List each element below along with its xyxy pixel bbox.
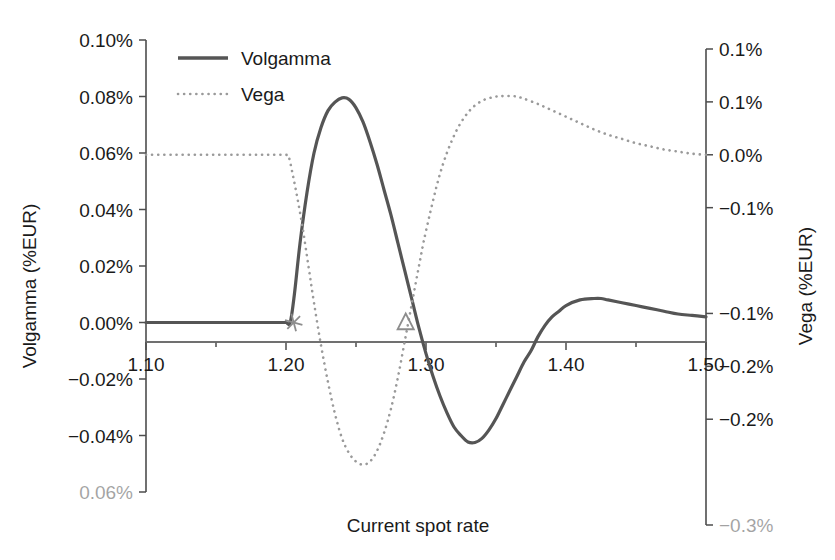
left-tick-label: −0.04%	[68, 426, 133, 447]
left-tick-label: 0.02%	[79, 256, 133, 277]
chart-canvas: 0.10%0.08%0.06%0.04%0.02%0.00%−0.02%−0.0…	[0, 0, 835, 560]
x-tick-label: 1.20	[268, 354, 305, 375]
x-tick-label: 1.50	[688, 354, 725, 375]
volgamma-vega-chart: 0.10%0.08%0.06%0.04%0.02%0.00%−0.02%−0.0…	[0, 0, 835, 560]
right-tick-label: −0.2%	[719, 356, 774, 377]
left-tick-label: −0.02%	[68, 369, 133, 390]
right-tick-label: 0.0%	[719, 145, 762, 166]
right-tick-label: −0.1%	[719, 198, 774, 219]
series-line-vega	[146, 96, 706, 465]
left-tick-label: 0.06%	[79, 482, 133, 503]
left-tick-label: 0.10%	[79, 30, 133, 51]
left-tick-label: 0.08%	[79, 87, 133, 108]
left-tick-label: 0.04%	[79, 200, 133, 221]
legend-label-vega: Vega	[241, 84, 285, 105]
x-tick-label: 1.40	[548, 354, 585, 375]
right-tick-label: −0.1%	[719, 303, 774, 324]
y-axis-title: Volgamma (%EUR)	[19, 204, 40, 369]
series-line-volgamma	[146, 98, 706, 443]
marker-layer	[285, 314, 414, 332]
triangle-marker	[398, 314, 414, 330]
legend: Volgamma Vega	[178, 48, 331, 105]
right-axis-tick-labels: 0.1%0.1%0.0%−0.1%−0.1%−0.2%−0.2%−0.3%	[719, 39, 774, 536]
left-axis-tick-labels: 0.10%0.08%0.06%0.04%0.02%0.00%−0.02%−0.0…	[68, 30, 133, 503]
series-layer	[146, 96, 706, 465]
y2-axis-title: Vega (%EUR)	[795, 227, 816, 345]
left-tick-label: 0.06%	[79, 143, 133, 164]
x-axis-title: Current spot rate	[347, 515, 490, 536]
right-tick-label: −0.2%	[719, 409, 774, 430]
right-tick-label: −0.3%	[719, 515, 774, 536]
left-tick-label: 0.00%	[79, 313, 133, 334]
x-tick-label: 1.10	[128, 354, 165, 375]
left-axis-ticks	[139, 40, 146, 492]
right-axis-ticks	[706, 49, 713, 525]
right-tick-label: 0.1%	[719, 92, 762, 113]
right-tick-label: 0.1%	[719, 39, 762, 60]
legend-label-volgamma: Volgamma	[241, 48, 331, 69]
